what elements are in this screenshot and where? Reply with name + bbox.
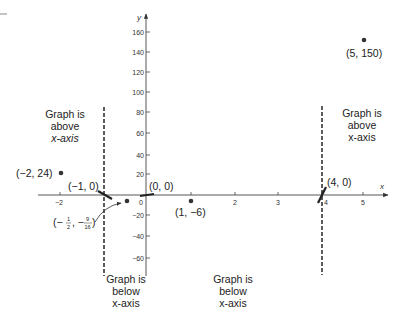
region-label-left-above: Graph is above x-axis xyxy=(45,108,85,144)
label-point-0-0: (0, 0) xyxy=(149,180,174,192)
svg-text:140: 140 xyxy=(132,49,144,56)
svg-text:below: below xyxy=(112,285,140,297)
region-label-right-above: Graph is above x-axis xyxy=(342,107,382,143)
svg-text:Graph is: Graph is xyxy=(342,107,382,119)
region-label-mid-below: Graph is below x-axis xyxy=(106,273,146,309)
x-axis-label: x xyxy=(379,182,385,191)
label-point-5-150: (5, 150) xyxy=(346,47,382,59)
svg-text:2: 2 xyxy=(233,199,237,206)
y-ticks xyxy=(146,32,150,258)
svg-text:2: 2 xyxy=(67,224,70,230)
svg-text:9: 9 xyxy=(86,216,89,222)
svg-text:x-axis: x-axis xyxy=(50,132,79,144)
svg-text:below: below xyxy=(219,285,247,297)
region-label-center-below: Graph is below x-axis xyxy=(213,273,253,309)
svg-text:above: above xyxy=(348,119,377,131)
svg-text:Graph is: Graph is xyxy=(106,273,146,285)
svg-text:0: 0 xyxy=(139,199,143,206)
label-point-1-neg6: (1, −6) xyxy=(175,206,206,218)
svg-text:160: 160 xyxy=(132,29,144,36)
svg-text:100: 100 xyxy=(132,89,144,96)
svg-text:x-axis: x-axis xyxy=(219,297,246,309)
svg-text:4: 4 xyxy=(324,199,328,206)
svg-text:−60: −60 xyxy=(132,255,144,262)
svg-text:16: 16 xyxy=(85,224,91,230)
svg-text:60: 60 xyxy=(136,130,144,137)
point-1-neg6 xyxy=(189,199,194,204)
svg-text:−2: −2 xyxy=(55,199,63,206)
point-5-150 xyxy=(362,38,367,43)
label-point-neg2-24: (−2, 24) xyxy=(16,167,52,179)
svg-text:1: 1 xyxy=(67,216,70,222)
svg-text:20: 20 xyxy=(136,171,144,178)
polynomial-sign-chart: x y −2 0 2 3 4 5 160 140 120 100 xyxy=(0,0,403,326)
y-tick-labels: 160 140 120 100 80 60 40 20 −20 −40 −60 xyxy=(132,29,144,262)
point-neg-half xyxy=(125,199,130,204)
svg-text:Graph is: Graph is xyxy=(213,273,253,285)
svg-text:80: 80 xyxy=(136,109,144,116)
svg-text:x-axis: x-axis xyxy=(348,131,375,143)
svg-text:−40: −40 xyxy=(132,233,144,240)
label-point-neg1-0: (−1, 0) xyxy=(68,180,99,192)
svg-text:(−: (− xyxy=(53,216,63,228)
svg-text:40: 40 xyxy=(136,152,144,159)
svg-text:above: above xyxy=(51,120,80,132)
svg-text:5: 5 xyxy=(361,199,365,206)
svg-text:, −: , − xyxy=(72,216,84,228)
svg-text:x-axis: x-axis xyxy=(112,297,139,309)
svg-text:): ) xyxy=(92,216,96,228)
svg-text:120: 120 xyxy=(132,69,144,76)
point-neg2-24 xyxy=(59,171,64,176)
label-point-4-0: (4, 0) xyxy=(327,176,352,188)
label-point-neg-half: (− 1 2 , − 9 16 ) xyxy=(53,216,96,230)
svg-text:Graph is: Graph is xyxy=(45,108,85,120)
svg-text:3: 3 xyxy=(276,199,280,206)
svg-text:−20: −20 xyxy=(132,212,144,219)
y-axis-label: y xyxy=(136,13,142,22)
data-points xyxy=(59,38,367,204)
pointer-arrow xyxy=(95,203,121,222)
crossing-mark-0 xyxy=(140,194,154,196)
